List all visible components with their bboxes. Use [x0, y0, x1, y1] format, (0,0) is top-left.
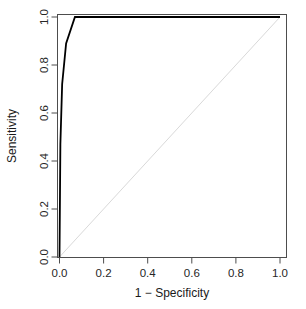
- roc-chart-svg: 0.00.20.40.60.81.0 0.00.20.40.60.81.0 1 …: [0, 0, 306, 309]
- y-tick-label: 0.2: [38, 201, 50, 217]
- x-tick-label: 0.2: [96, 267, 112, 279]
- x-axis-title: 1 − Specificity: [135, 286, 209, 300]
- y-tick-label: 0.0: [38, 249, 50, 265]
- y-tick-label: 0.8: [38, 57, 50, 73]
- y-tick-label: 0.4: [38, 152, 50, 169]
- y-axis-title: Sensitivity: [5, 109, 19, 163]
- x-tick-label: 1.0: [272, 267, 288, 279]
- roc-plot-container: 0.00.20.40.60.81.0 0.00.20.40.60.81.0 1 …: [0, 0, 306, 309]
- x-tick-label: 0.6: [184, 267, 200, 279]
- x-tick-label: 0.0: [52, 267, 68, 279]
- x-tick-label: 0.4: [140, 267, 157, 279]
- y-tick-label: 0.6: [38, 105, 50, 121]
- y-tick-label: 1.0: [38, 9, 50, 25]
- x-tick-label: 0.8: [228, 267, 244, 279]
